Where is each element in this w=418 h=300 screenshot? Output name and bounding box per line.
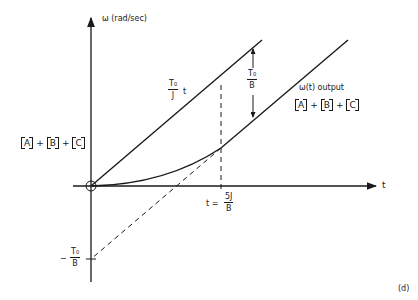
sum-left-term-c: C — [72, 137, 84, 149]
panel-label: (d) — [398, 285, 409, 293]
gap-numerator: T₀ — [247, 70, 257, 80]
time-marker-numerator: 5J — [224, 193, 233, 203]
gap-denominator: B — [249, 80, 255, 90]
sum-right-term-c: C — [346, 99, 358, 111]
output-label: ω(t) output — [299, 84, 344, 92]
upper-line-fraction: T₀ J — [168, 80, 178, 100]
sum-left-term-b: B — [47, 137, 59, 149]
time-marker-denominator: B — [226, 203, 232, 213]
intercept-denominator: B — [72, 258, 78, 268]
sum-right-term-a: A — [295, 99, 307, 111]
upper-line-denominator: J — [172, 90, 174, 100]
sum-right-plus-2: + — [336, 100, 344, 110]
y-axis-label: ω (rad/sec) — [102, 15, 147, 23]
intercept-numerator: T₀ — [70, 248, 80, 258]
sum-left-plus-1: + — [36, 138, 44, 148]
sum-left-plus-2: + — [62, 138, 70, 148]
output-curve — [91, 40, 348, 186]
sum-left-term-a: A — [21, 137, 33, 149]
time-marker-fraction: 5J B — [224, 193, 233, 213]
x-axis-label: t — [382, 181, 386, 190]
intercept-fraction: T₀ B — [70, 248, 80, 268]
sum-right-plus-1: + — [310, 100, 318, 110]
upper-line-numerator: T₀ — [168, 80, 178, 90]
sum-right-term-b: B — [321, 99, 333, 111]
upper-line-suffix: t — [183, 88, 186, 96]
initial-slope-line — [91, 40, 262, 186]
intercept-sign: − — [60, 255, 67, 263]
asymptote-extension-dashed — [91, 148, 221, 259]
sum-right: A + B + C — [294, 99, 360, 111]
gap-fraction: T₀ B — [247, 70, 257, 90]
time-marker-prefix: t = — [206, 200, 218, 208]
sum-left: A + B + C — [20, 137, 86, 149]
